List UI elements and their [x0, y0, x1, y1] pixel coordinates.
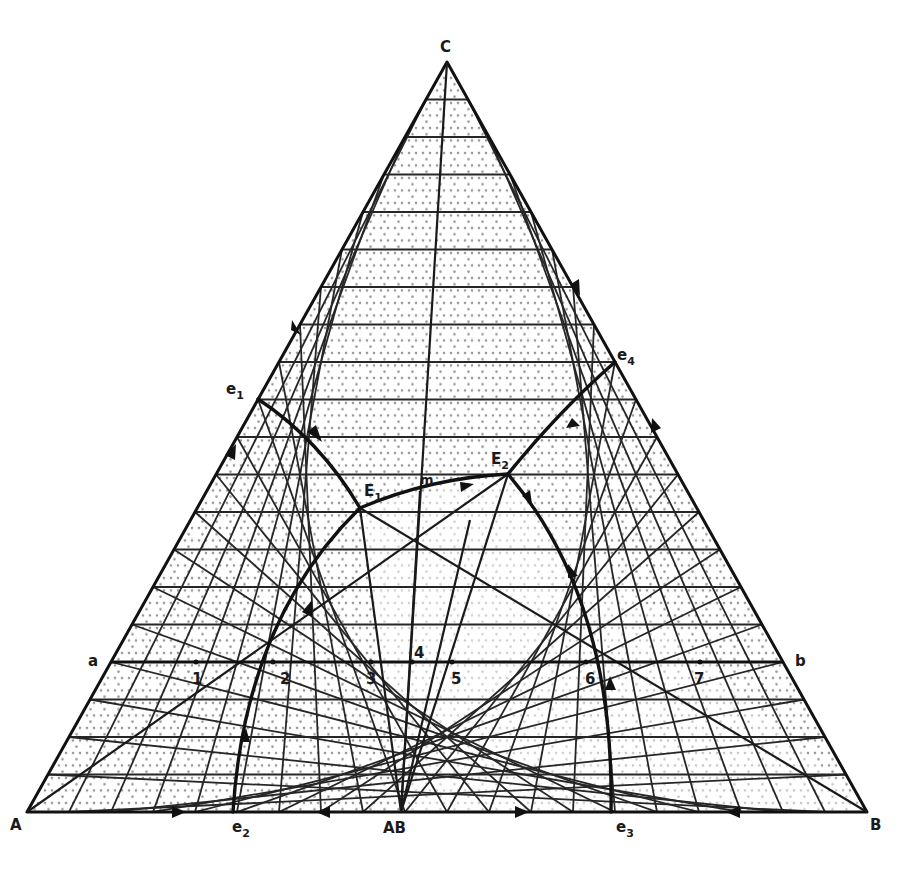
isotherm-point-marker — [698, 660, 703, 665]
point-label-e2: e2 — [232, 818, 250, 840]
point-label-e4: e4 — [617, 346, 635, 368]
isotherm-label-b: b — [795, 652, 806, 670]
vertex-label-a: A — [10, 816, 22, 834]
vertex-label-ab: AB — [383, 819, 406, 837]
point-label-e3: e3 — [616, 818, 634, 840]
point-label-m: m — [420, 472, 434, 487]
isotherm-point-marker — [271, 660, 276, 665]
isotherm-point-label-6: 6 — [585, 670, 595, 688]
isotherm-point-label-2: 2 — [280, 670, 290, 688]
isotherm-label-a: a — [88, 652, 98, 670]
ternary-phase-diagram: C A B AB a b e1 e2 e3 e4 E1 E2 m 1 2 3 4… — [0, 0, 916, 876]
isotherm-point-label-5: 5 — [451, 670, 461, 688]
vertex-label-c: C — [440, 38, 451, 56]
arrow-b-to-e4-icon — [651, 418, 661, 433]
isotherm-point-marker — [450, 660, 455, 665]
isotherm-point-label-3: 3 — [366, 670, 376, 688]
point-label-e1: e1 — [226, 380, 244, 402]
isotherm-point-marker — [194, 660, 199, 665]
isotherm-point-label-7: 7 — [694, 670, 704, 688]
isotherm-point-label-1: 1 — [192, 670, 202, 688]
isotherm-point-marker — [369, 660, 374, 665]
isotherm-point-marker — [584, 660, 589, 665]
isotherm-point-label-4: 4 — [414, 644, 424, 662]
vertex-label-b: B — [870, 816, 881, 834]
